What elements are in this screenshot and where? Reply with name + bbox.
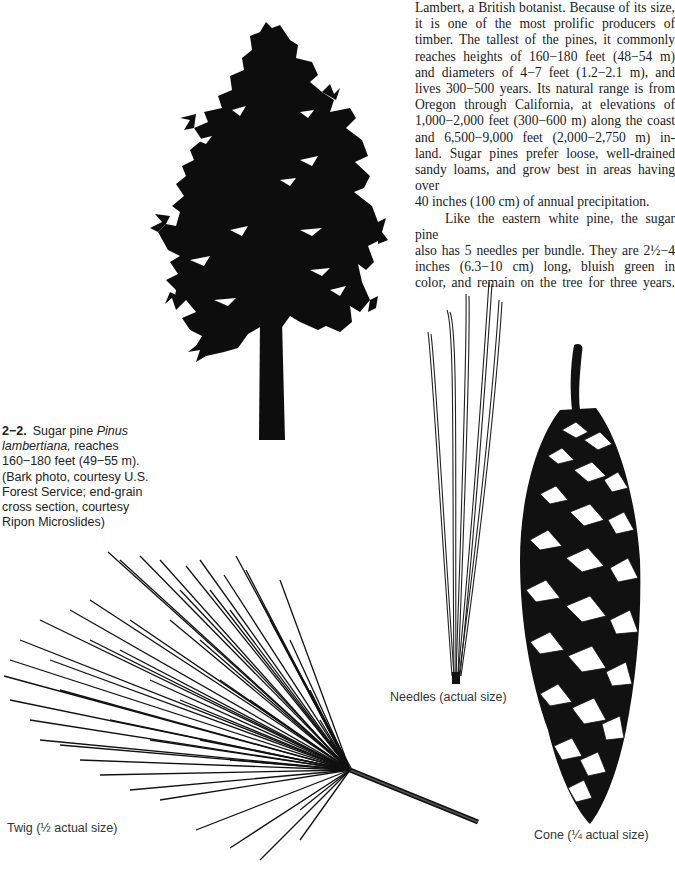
twig-label: Twig (½ actual size) <box>7 821 117 835</box>
figure-number: 2−2. <box>2 424 27 438</box>
needles-label: Needles (actual size) <box>390 690 507 704</box>
twig-illustration <box>4 552 478 860</box>
book-page: Lambert, a British botanist. Because of … <box>0 0 675 871</box>
caption-text-pre: Sugar pine <box>33 424 97 438</box>
cone-illustration <box>520 344 640 824</box>
figure-caption: 2−2.Sugar pine Pinus lambertiana, reache… <box>2 424 152 530</box>
needles-illustration <box>428 282 502 684</box>
cone-label: Cone (¼ actual size) <box>534 828 649 842</box>
tree-silhouette-illustration <box>150 22 388 440</box>
